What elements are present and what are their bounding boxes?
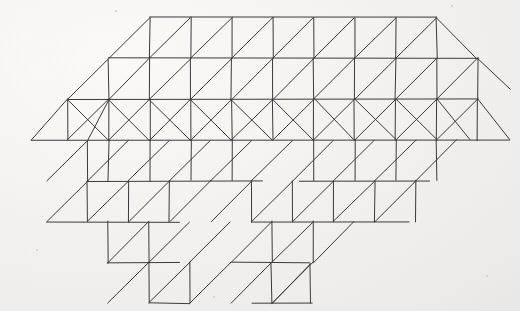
mesh-edge — [47, 181, 88, 222]
mesh-edge — [354, 18, 396, 58]
mesh-edge — [273, 18, 313, 58]
mesh-edge — [478, 99, 510, 140]
mesh-edge — [108, 262, 149, 303]
mesh-edge — [375, 181, 416, 222]
mesh-edge — [437, 99, 470, 140]
mesh-edge — [232, 58, 273, 99]
mesh-edge — [273, 58, 314, 99]
mesh-edge — [334, 181, 375, 221]
mesh-edge — [108, 58, 477, 59]
mesh-edge — [395, 18, 436, 59]
mesh-edge — [251, 140, 292, 180]
mesh-edge — [271, 263, 272, 304]
mesh-edge — [31, 99, 67, 140]
mesh-edge — [272, 100, 273, 140]
mesh-edge — [88, 99, 109, 140]
mesh-edge — [436, 17, 437, 58]
mesh-edge — [314, 58, 355, 99]
mesh-edge — [272, 264, 310, 304]
mesh-edge — [190, 58, 232, 100]
mesh-edge — [211, 181, 252, 222]
mesh-edge — [170, 180, 211, 221]
mesh-edge — [128, 141, 169, 181]
drawing-canvas — [0, 0, 520, 311]
triangulated-mesh-figure — [0, 0, 520, 311]
mesh-edge — [310, 263, 311, 303]
mesh-edge — [252, 181, 293, 221]
mesh-edge — [355, 58, 396, 99]
mesh-edge — [169, 141, 210, 182]
mesh-edge — [108, 222, 149, 263]
mesh-edge — [374, 140, 416, 181]
mesh-edge — [109, 59, 149, 100]
mesh-edge — [437, 58, 478, 99]
mesh-edge — [67, 59, 108, 100]
mesh-edge — [149, 262, 190, 302]
mesh-edge — [437, 18, 477, 59]
mesh-edge — [314, 18, 354, 58]
mesh-edge — [396, 58, 437, 99]
mesh-edge — [108, 140, 109, 182]
mesh-edge — [149, 222, 190, 263]
mesh-edge — [436, 140, 437, 181]
mesh-edge — [47, 140, 88, 181]
mesh-edge — [313, 222, 354, 264]
mesh-edge — [231, 222, 272, 263]
mesh-edge — [108, 59, 109, 99]
mesh-edge — [292, 140, 333, 181]
mesh-edge — [149, 59, 191, 100]
mesh-edge — [149, 18, 150, 59]
mesh-edge — [333, 140, 374, 181]
mesh-edge — [190, 262, 231, 303]
mesh-edge — [231, 262, 271, 303]
mesh-edge — [150, 303, 190, 304]
mesh-edge — [232, 99, 233, 139]
mesh-edge — [129, 181, 170, 222]
mesh-edge — [88, 181, 129, 221]
mesh-edge — [271, 222, 313, 262]
mesh-edge — [437, 99, 478, 140]
mesh-edge — [293, 181, 333, 221]
mesh-edge — [374, 181, 375, 222]
mesh-edge — [189, 222, 230, 263]
mesh-edge — [477, 58, 510, 89]
mesh-edge — [210, 141, 251, 181]
mesh-edge — [150, 17, 191, 58]
mesh-edge — [109, 18, 150, 59]
mesh-edge — [232, 17, 273, 58]
mesh-line-group — [31, 17, 510, 304]
mesh-edge — [87, 181, 262, 182]
mesh-edge — [395, 58, 396, 99]
mesh-edge — [191, 17, 233, 58]
